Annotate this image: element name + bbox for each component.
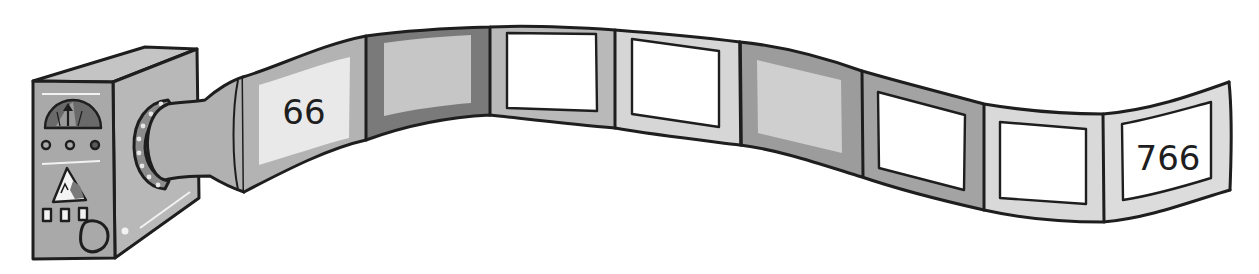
round-knob-icon[interactable]	[81, 221, 108, 252]
indicator-light-3	[91, 141, 99, 149]
strip-frame-3	[490, 26, 615, 128]
machine-button-1[interactable]	[43, 209, 51, 221]
strip-frame-1: 66	[243, 36, 366, 192]
frame-strip: 66	[243, 26, 1231, 222]
machine	[33, 47, 244, 259]
indicator-light-2	[66, 141, 74, 149]
indicator-light-1	[42, 141, 50, 149]
machine-button-3[interactable]	[79, 208, 87, 220]
strip-frame-4	[615, 30, 740, 145]
frame-1-label: 66	[282, 92, 325, 132]
frame-8-label: 766	[1136, 138, 1201, 178]
strip-frame-6	[862, 71, 984, 210]
machine-button-2[interactable]	[61, 209, 69, 221]
strip-frame-7	[984, 104, 1103, 222]
number-machine-illustration: 66	[0, 0, 1259, 274]
